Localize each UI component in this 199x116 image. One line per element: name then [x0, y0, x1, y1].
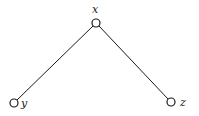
- node-z-label: z: [179, 96, 186, 109]
- node-z: [167, 98, 175, 106]
- edge-x-z: [99, 26, 168, 99]
- node-y: [10, 99, 18, 107]
- edge-x-y: [17, 26, 93, 100]
- node-x: [92, 19, 100, 27]
- node-y-label: y: [20, 97, 28, 110]
- node-x-label: x: [92, 3, 99, 16]
- tree-diagram: x y z: [0, 0, 199, 116]
